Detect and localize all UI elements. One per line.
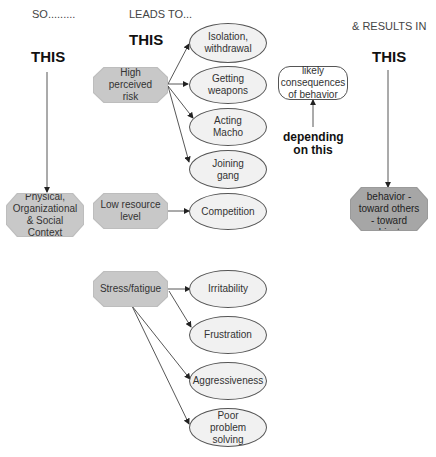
node-violent-behavior-label: Violent behavior - toward others - towar… xyxy=(351,188,427,230)
node-competition: Competition xyxy=(189,193,267,230)
node-violent-behavior: Violent behavior - toward others - towar… xyxy=(350,187,428,231)
node-stress-label: Stress/fatigue xyxy=(94,272,167,306)
annotation-depending: depending on this xyxy=(283,131,343,157)
node-weapons: Getting weapons xyxy=(189,66,267,104)
this-label-right: THIS xyxy=(372,48,406,65)
node-high-risk-label: High perceived risk xyxy=(94,68,167,102)
header-results-in: & RESULTS IN xyxy=(352,20,426,32)
node-context-label: Physical, Organizational & Social Contex… xyxy=(7,194,83,236)
node-low-resource: Low resource level xyxy=(93,193,168,229)
node-high-risk: High perceived risk xyxy=(93,67,168,103)
node-low-resource-label: Low resource level xyxy=(94,194,167,228)
node-frustration: Frustration xyxy=(189,316,267,354)
node-macho: Acting Macho xyxy=(189,108,267,146)
header-so: SO......... xyxy=(32,8,75,20)
node-context: Physical, Organizational & Social Contex… xyxy=(6,193,84,237)
node-isolation: Isolation, withdrawal xyxy=(189,23,267,63)
node-stress: Stress/fatigue xyxy=(93,271,168,307)
node-irritability: Irritability xyxy=(189,270,267,308)
node-consequences: likely consequences of behavior xyxy=(278,66,348,100)
node-aggressiveness: Aggressiveness xyxy=(189,362,267,400)
this-label-middle: THIS xyxy=(129,31,163,48)
header-leads-to: LEADS TO... xyxy=(129,8,192,20)
this-label-left: THIS xyxy=(31,48,65,65)
node-problem-solving: Poor problem solving xyxy=(189,408,267,447)
node-gang: Joining gang xyxy=(189,150,267,189)
